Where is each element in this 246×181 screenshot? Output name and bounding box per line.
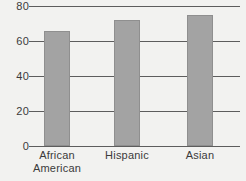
xtick-label-african-american: African American <box>22 149 92 175</box>
bar-hispanic <box>114 20 140 146</box>
bar-african-american <box>44 31 70 147</box>
gridline-80 <box>29 6 240 7</box>
ytick-label-80: 80 <box>0 1 29 12</box>
ytick-label-60: 60 <box>0 36 29 47</box>
gridline-0 <box>29 146 240 147</box>
bar-asian <box>187 15 213 146</box>
bar-chart: 80 60 40 20 0 African American Hispanic … <box>0 0 246 181</box>
ytick-label-20: 20 <box>0 106 29 117</box>
xtick-label-asian: Asian <box>165 149 235 162</box>
ytick-label-40: 40 <box>0 71 29 82</box>
plot-area: 80 60 40 20 0 African American Hispanic … <box>0 0 246 181</box>
xtick-label-hispanic: Hispanic <box>92 149 162 162</box>
y-axis-line <box>29 6 30 147</box>
